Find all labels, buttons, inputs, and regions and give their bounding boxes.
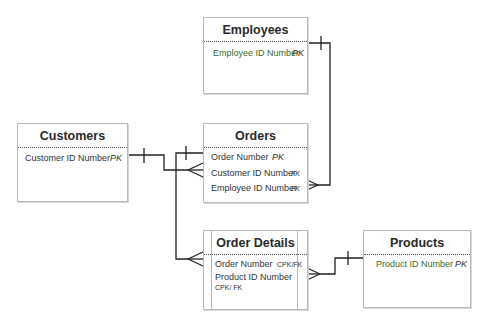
divider xyxy=(204,41,307,42)
attribute-label: Employee ID Number xyxy=(211,183,297,193)
attribute-key: CPK/FK xyxy=(277,261,302,268)
attribute-label: Order Number xyxy=(211,152,269,162)
attribute-key: CPK/ FK xyxy=(215,284,242,291)
divider xyxy=(18,147,127,148)
entity-orders[interactable]: Orders Order Number PK Customer ID Numbe… xyxy=(203,123,308,203)
attribute-key: PK xyxy=(292,48,304,58)
attribute-label: Order Number xyxy=(215,259,273,269)
divider xyxy=(204,254,307,255)
attribute-key: PK xyxy=(455,259,467,269)
associative-border-left xyxy=(211,231,212,309)
entity-products[interactable]: Products Product ID Number PK xyxy=(363,230,471,308)
divider xyxy=(364,254,470,255)
attribute-label: Customer ID Number xyxy=(25,153,110,163)
attribute-label: Employee ID Number xyxy=(213,48,299,58)
divider xyxy=(204,147,307,148)
entity-title: Customers xyxy=(18,124,127,144)
attribute-key: FK xyxy=(291,170,300,177)
employees-orders-relationship xyxy=(307,36,330,190)
orders-orderdetails-relationship xyxy=(176,146,203,266)
entity-order-details[interactable]: Order Details Order Number CPK/FK Produc… xyxy=(203,230,308,310)
attribute-key: PK xyxy=(272,152,284,162)
attribute-label: Customer ID Number xyxy=(211,168,296,178)
entity-employees[interactable]: Employees Employee ID Number PK xyxy=(203,17,308,94)
attribute-key: FK xyxy=(291,185,300,192)
entity-title: Orders xyxy=(204,124,307,144)
attribute-label: Product ID Number xyxy=(376,259,453,269)
entity-title: Order Details xyxy=(204,231,307,251)
associative-border-right xyxy=(297,231,298,309)
entity-title: Products xyxy=(364,231,470,251)
attribute-key: PK xyxy=(110,153,122,163)
attribute-label: Product ID Number xyxy=(215,272,292,282)
entity-customers[interactable]: Customers Customer ID Number PK xyxy=(17,123,128,202)
products-orderdetails-relationship xyxy=(307,251,363,280)
entity-title: Employees xyxy=(204,18,307,38)
